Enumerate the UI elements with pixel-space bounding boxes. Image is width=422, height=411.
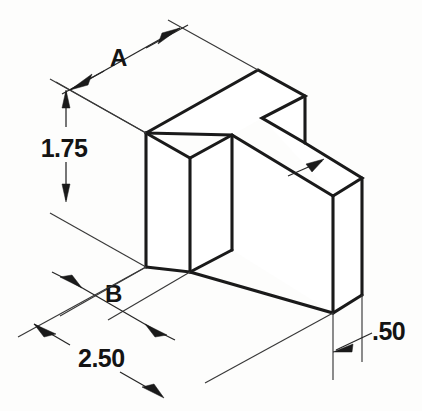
part-solid [146, 70, 362, 313]
face-right-wall-side [333, 178, 362, 313]
dim-a-arrow-right [158, 28, 180, 44]
dim-thickness-leader [336, 333, 372, 350]
dim-thickness-arrow [333, 344, 353, 352]
isometric-drawing-canvas: A 1.75 B [0, 0, 422, 411]
dimension-b: B [52, 267, 190, 340]
dim-height-arrow-bottom [62, 184, 70, 202]
dim-a-extension-right [168, 20, 258, 70]
dim-b-arrow-left [60, 275, 82, 288]
dim-a-arrow-left [70, 74, 92, 90]
dim-height-extension-bottom [50, 213, 146, 267]
dim-a-label: A [110, 44, 127, 71]
technical-drawing-page: A 1.75 B [0, 0, 422, 411]
dim-width-arrow-right [142, 384, 164, 398]
dim-width-extension-right [205, 313, 333, 383]
dimension-height: 1.75 [41, 79, 146, 267]
dim-width-label: 2.50 [78, 344, 125, 372]
dim-height-label: 1.75 [41, 134, 88, 162]
dimension-width: 2.50 [18, 267, 333, 398]
dim-thickness-label: .50 [372, 317, 405, 345]
dim-b-arrow-right [145, 324, 167, 337]
dim-width-arrow-left [34, 324, 56, 337]
